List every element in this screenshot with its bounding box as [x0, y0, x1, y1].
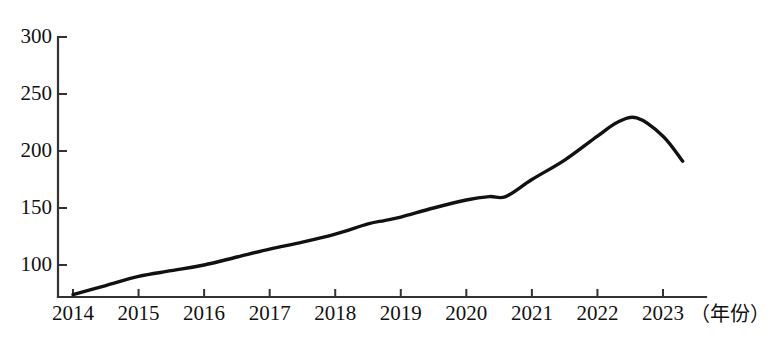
x-axis-tick-label: 2018 [303, 303, 367, 324]
y-axis-tick-label: 100 [0, 254, 52, 275]
x-axis-tick-label: 2015 [107, 303, 171, 324]
x-axis-tick-label: 2021 [500, 303, 564, 324]
x-axis-title: （年份） [690, 304, 770, 324]
x-axis-tick-label: 2022 [565, 303, 629, 324]
y-axis-tick-label: 150 [0, 197, 52, 218]
x-axis-tick-label: 2019 [369, 303, 433, 324]
y-axis-ticks [58, 37, 67, 265]
x-axis-tick-label: 2017 [238, 303, 302, 324]
x-axis-ticks [73, 289, 663, 297]
x-axis-tick-label: 2020 [434, 303, 498, 324]
chart-canvas [0, 0, 776, 340]
y-axis-tick-label: 250 [0, 83, 52, 104]
x-axis-tick-label: 2014 [41, 303, 105, 324]
x-axis-tick-label: 2023 [631, 303, 695, 324]
y-axis-tick-label: 200 [0, 140, 52, 161]
x-axis-tick-label: 2016 [172, 303, 236, 324]
line-chart: 100150200250300 201420152016201720182019… [0, 0, 776, 340]
y-axis-tick-label: 300 [0, 26, 52, 47]
data-series-line [73, 117, 683, 294]
